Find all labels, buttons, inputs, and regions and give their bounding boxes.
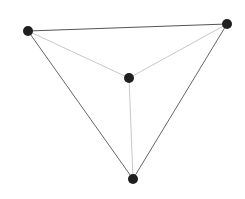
edge-n1-n3 xyxy=(28,31,129,78)
node-n1 xyxy=(23,26,33,36)
node-n2 xyxy=(222,19,232,29)
edge-n2-n4 xyxy=(133,24,227,179)
graph-diagram xyxy=(0,0,245,199)
edge-n2-n3 xyxy=(129,24,227,78)
node-n3 xyxy=(124,73,134,83)
edge-n1-n4 xyxy=(28,31,133,179)
edge-n1-n2 xyxy=(28,24,227,31)
node-n4 xyxy=(128,174,138,184)
edge-layer xyxy=(28,24,227,179)
edge-n3-n4 xyxy=(129,78,133,179)
